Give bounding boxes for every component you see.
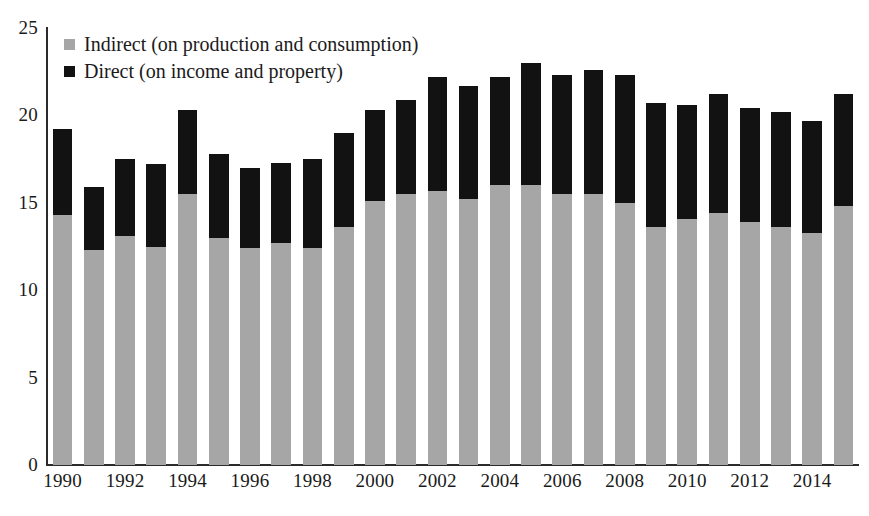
- bar-segment-direct: [178, 110, 198, 194]
- bar-1991: [84, 187, 104, 465]
- bar-segment-indirect: [552, 194, 572, 465]
- bar-segment-indirect: [834, 206, 854, 465]
- bar-segment-direct: [584, 70, 604, 194]
- x-tick-label: 2004: [480, 470, 519, 491]
- legend-swatch-indirect: [64, 39, 75, 50]
- bar-2003: [459, 86, 479, 465]
- bar-2005: [521, 63, 541, 465]
- bar-2013: [771, 112, 791, 465]
- bar-2014: [802, 121, 822, 465]
- y-tick-label: 5: [0, 368, 38, 387]
- legend-item-indirect: Indirect (on production and consumption): [64, 32, 418, 56]
- bar-1992: [115, 159, 135, 465]
- bar-segment-direct: [709, 94, 729, 213]
- bar-segment-direct: [677, 105, 697, 219]
- y-tick-label: 0: [0, 455, 38, 474]
- bar-segment-direct: [521, 63, 541, 185]
- x-tick-label: 1998: [293, 470, 332, 491]
- bar-1994: [178, 110, 198, 465]
- bar-2004: [490, 77, 510, 465]
- legend-label-direct: Direct (on income and property): [84, 61, 343, 81]
- bar-segment-direct: [490, 77, 510, 185]
- bar-segment-direct: [84, 187, 104, 250]
- bar-segment-indirect: [271, 243, 291, 465]
- bar-2007: [584, 70, 604, 465]
- x-tick-label: 2008: [605, 470, 644, 491]
- y-tick-label: 15: [0, 193, 38, 212]
- bar-segment-direct: [740, 108, 760, 222]
- bar-segment-indirect: [802, 233, 822, 465]
- x-tick-label: 2010: [668, 470, 707, 491]
- legend-label-indirect: Indirect (on production and consumption): [84, 34, 418, 54]
- bar-1999: [334, 133, 354, 465]
- bar-segment-indirect: [771, 227, 791, 465]
- bar-segment-direct: [271, 163, 291, 243]
- x-tick-label: 2012: [730, 470, 769, 491]
- x-tick-label: 2006: [543, 470, 582, 491]
- bar-segment-indirect: [178, 194, 198, 465]
- x-tick-label: 2000: [356, 470, 395, 491]
- bar-1997: [271, 163, 291, 465]
- bar-segment-indirect: [740, 222, 760, 465]
- bar-segment-direct: [115, 159, 135, 236]
- bar-segment-indirect: [303, 248, 323, 465]
- x-tick-label: 1992: [106, 470, 145, 491]
- bar-segment-indirect: [53, 215, 73, 465]
- bar-segment-indirect: [209, 238, 229, 465]
- bar-segment-direct: [240, 168, 260, 248]
- bar-segment-direct: [146, 164, 166, 246]
- bar-segment-indirect: [428, 191, 448, 465]
- y-tick-label: 10: [0, 280, 38, 299]
- bar-segment-direct: [396, 100, 416, 194]
- bar-2012: [740, 108, 760, 465]
- bar-1993: [146, 164, 166, 465]
- bar-segment-indirect: [615, 203, 635, 465]
- bar-segment-indirect: [365, 201, 385, 465]
- bar-segment-indirect: [709, 213, 729, 465]
- y-tick-label: 25: [0, 18, 38, 37]
- bar-segment-direct: [615, 75, 635, 203]
- x-tick-label: 1990: [43, 470, 82, 491]
- bar-segment-indirect: [146, 247, 166, 466]
- bar-2015: [834, 94, 854, 465]
- bar-1996: [240, 168, 260, 465]
- bar-2011: [709, 94, 729, 465]
- bar-2001: [396, 100, 416, 465]
- bar-segment-indirect: [521, 185, 541, 465]
- bar-segment-indirect: [240, 248, 260, 465]
- bar-segment-direct: [209, 154, 229, 238]
- chart-legend: Indirect (on production and consumption)…: [64, 32, 418, 86]
- legend-swatch-direct: [64, 66, 75, 77]
- bar-segment-indirect: [677, 219, 697, 465]
- x-tick-label: 2014: [793, 470, 832, 491]
- bar-segment-indirect: [490, 185, 510, 465]
- bar-segment-direct: [771, 112, 791, 227]
- bar-series-container: [47, 28, 859, 465]
- bar-segment-indirect: [459, 199, 479, 465]
- bar-segment-direct: [365, 110, 385, 201]
- bar-segment-direct: [802, 121, 822, 233]
- bar-segment-direct: [303, 159, 323, 248]
- bar-segment-indirect: [84, 250, 104, 465]
- bar-segment-direct: [334, 133, 354, 227]
- x-tick-label: 1994: [168, 470, 207, 491]
- bar-2002: [428, 77, 448, 465]
- bar-2009: [646, 103, 666, 465]
- bar-segment-indirect: [115, 236, 135, 465]
- x-tick-label: 2002: [418, 470, 457, 491]
- bar-1990: [53, 129, 73, 465]
- bar-segment-indirect: [396, 194, 416, 465]
- bar-segment-direct: [552, 75, 572, 194]
- bar-1998: [303, 159, 323, 465]
- bar-2008: [615, 75, 635, 465]
- bar-segment-direct: [428, 77, 448, 191]
- legend-item-direct: Direct (on income and property): [64, 59, 418, 83]
- bar-segment-direct: [459, 86, 479, 200]
- stacked-bar-chart: 0510152025 19901992199419961998200020022…: [0, 0, 869, 516]
- bar-2000: [365, 110, 385, 465]
- bar-segment-direct: [834, 94, 854, 206]
- bar-segment-direct: [646, 103, 666, 227]
- bar-segment-indirect: [646, 227, 666, 465]
- bar-2010: [677, 105, 697, 465]
- bar-segment-indirect: [334, 227, 354, 465]
